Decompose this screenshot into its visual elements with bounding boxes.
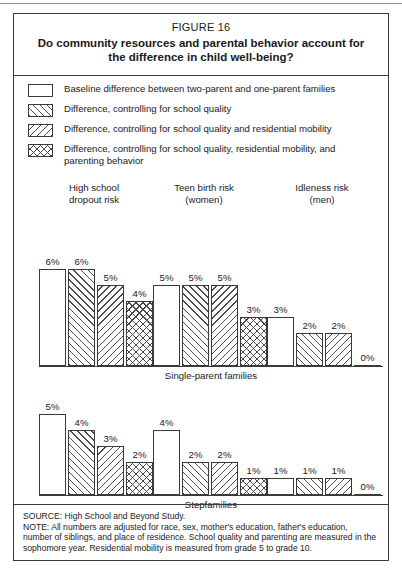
bar-value-label: 1% (267, 465, 294, 476)
bar-row2-dropout-mobility (97, 446, 124, 495)
bar-row1-teenbirth-school (182, 285, 209, 366)
axis-baseline-row1-dropout (39, 366, 155, 367)
bar-group-row1-teenbirth: 5% 5% 5% 3% (153, 226, 269, 366)
bar-value-label: 3% (97, 433, 124, 444)
figure-title-line-1: Do community resources and parental beha… (32, 36, 370, 50)
bar-row1-dropout-mobility (97, 285, 124, 366)
legend-item-baseline: Baseline difference between two-parent a… (28, 83, 388, 97)
figure-header: FIGURE 16 Do community resources and par… (14, 14, 388, 76)
bar-group-row2-teenbirth: 4% 2% 2% 1% (153, 395, 269, 495)
legend-label-school-quality: Difference, controlling for school quali… (64, 103, 231, 115)
bar-row1-dropout-parenting (126, 301, 153, 366)
axis-baseline-row2-idleness (267, 495, 383, 496)
legend-label-residential-mobility: Difference, controlling for school quali… (64, 123, 332, 135)
bar-row1-idleness-school (296, 333, 323, 366)
bar-value-label: 5% (211, 272, 238, 283)
bar-value-label: 1% (325, 465, 352, 476)
legend-swatch-backward-hatch-icon (28, 124, 53, 137)
bar-row2-teenbirth-school (182, 462, 209, 495)
bar-value-label: 2% (296, 320, 323, 331)
footer-note: NOTE: All numbers are adjusted for race,… (23, 522, 379, 553)
bar-value-label: 6% (68, 256, 95, 267)
figure-title-line-2: the difference in child well-being? (32, 50, 370, 64)
bar-row2-dropout-parenting (126, 462, 153, 495)
legend-item-parenting-behavior: Difference, controlling for school quali… (28, 143, 388, 166)
chart-plot-area: High school dropout risk Teen birth risk… (14, 182, 388, 507)
figure-box: FIGURE 16 Do community resources and par… (13, 13, 389, 561)
legend-label-baseline: Baseline difference between two-parent a… (64, 83, 335, 95)
bar-value-label: 4% (126, 288, 153, 299)
group-heading-teenbirth-line-1: Teen birth risk (144, 182, 264, 194)
bar-group-row1-dropout: 6% 6% 5% 4% (39, 226, 155, 366)
bar-group-row2-idleness: 1% 1% 1% 0% (267, 395, 383, 495)
bar-row2-dropout-baseline (39, 414, 66, 495)
bar-row1-teenbirth-mobility (211, 285, 238, 366)
row-label-single-parent: Single-parent families (153, 370, 269, 381)
axis-baseline-row1-idleness (267, 366, 383, 367)
bar-value-label: 1% (296, 465, 323, 476)
axis-baseline-row1-teenbirth (153, 366, 269, 367)
bar-row2-idleness-baseline (267, 478, 294, 495)
bar-row2-teenbirth-baseline (153, 430, 180, 495)
axis-baseline-row2-dropout (39, 495, 155, 496)
bar-value-label: 5% (39, 401, 66, 412)
legend-swatch-crosshatch-icon (28, 144, 53, 157)
bar-value-label: 1% (240, 465, 267, 476)
bar-value-label: 2% (126, 449, 153, 460)
bar-value-label: 4% (68, 417, 95, 428)
group-heading-idleness: Idleness risk (men) (262, 182, 382, 205)
bar-value-label: 2% (182, 449, 209, 460)
bar-value-label: 2% (325, 320, 352, 331)
bar-value-label: 0% (354, 481, 381, 492)
figure-title: Do community resources and parental beha… (14, 36, 388, 64)
legend-item-residential-mobility: Difference, controlling for school quali… (28, 123, 388, 137)
group-heading-dropout-line-1: High school (34, 182, 154, 194)
bar-value-label: 5% (153, 272, 180, 283)
figure-footer: SOURCE: High School and Beyond Study. NO… (14, 504, 388, 560)
bar-value-label: 6% (39, 256, 66, 267)
legend-label-parenting-behavior: Difference, controlling for school quali… (64, 143, 364, 166)
bar-row2-idleness-school (296, 478, 323, 495)
figure-page: FIGURE 16 Do community resources and par… (0, 0, 402, 577)
chart-legend: Baseline difference between two-parent a… (14, 76, 388, 172)
group-heading-idleness-line-1: Idleness risk (262, 182, 382, 194)
bar-row2-idleness-mobility (325, 478, 352, 495)
axis-baseline-row2-teenbirth (153, 495, 269, 496)
legend-swatch-plain-icon (28, 84, 53, 97)
legend-swatch-forward-hatch-icon (28, 104, 53, 117)
bar-row1-teenbirth-baseline (153, 285, 180, 366)
group-heading-teenbirth-line-2: (women) (144, 194, 264, 206)
bar-row2-dropout-school (68, 430, 95, 495)
group-heading-dropout-line-2: dropout risk (34, 194, 154, 206)
bar-value-label: 4% (153, 417, 180, 428)
bar-row2-teenbirth-mobility (211, 462, 238, 495)
bar-row1-dropout-baseline (39, 269, 66, 366)
bar-row1-dropout-school (68, 269, 95, 366)
bar-row2-teenbirth-parenting (240, 478, 267, 495)
bar-value-label: 3% (240, 304, 267, 315)
page-top-rule (0, 3, 402, 4)
bar-value-label: 3% (267, 304, 294, 315)
bar-value-label: 5% (182, 272, 209, 283)
bar-value-label: 0% (354, 352, 381, 363)
group-heading-idleness-line-2: (men) (262, 194, 382, 206)
figure-number: FIGURE 16 (14, 21, 388, 33)
group-heading-dropout: High school dropout risk (34, 182, 154, 205)
footer-source: SOURCE: High School and Beyond Study. (23, 511, 379, 521)
bar-value-label: 5% (97, 272, 124, 283)
bar-row1-idleness-mobility (325, 333, 352, 366)
bar-group-row2-dropout: 5% 4% 3% 2% (39, 395, 155, 495)
legend-item-school-quality: Difference, controlling for school quali… (28, 103, 388, 117)
group-heading-teenbirth: Teen birth risk (women) (144, 182, 264, 205)
bar-value-label: 2% (211, 449, 238, 460)
bar-group-row1-idleness: 3% 2% 2% 0% (267, 226, 383, 366)
bar-row1-idleness-baseline (267, 317, 294, 366)
bar-row1-teenbirth-parenting (240, 317, 267, 366)
